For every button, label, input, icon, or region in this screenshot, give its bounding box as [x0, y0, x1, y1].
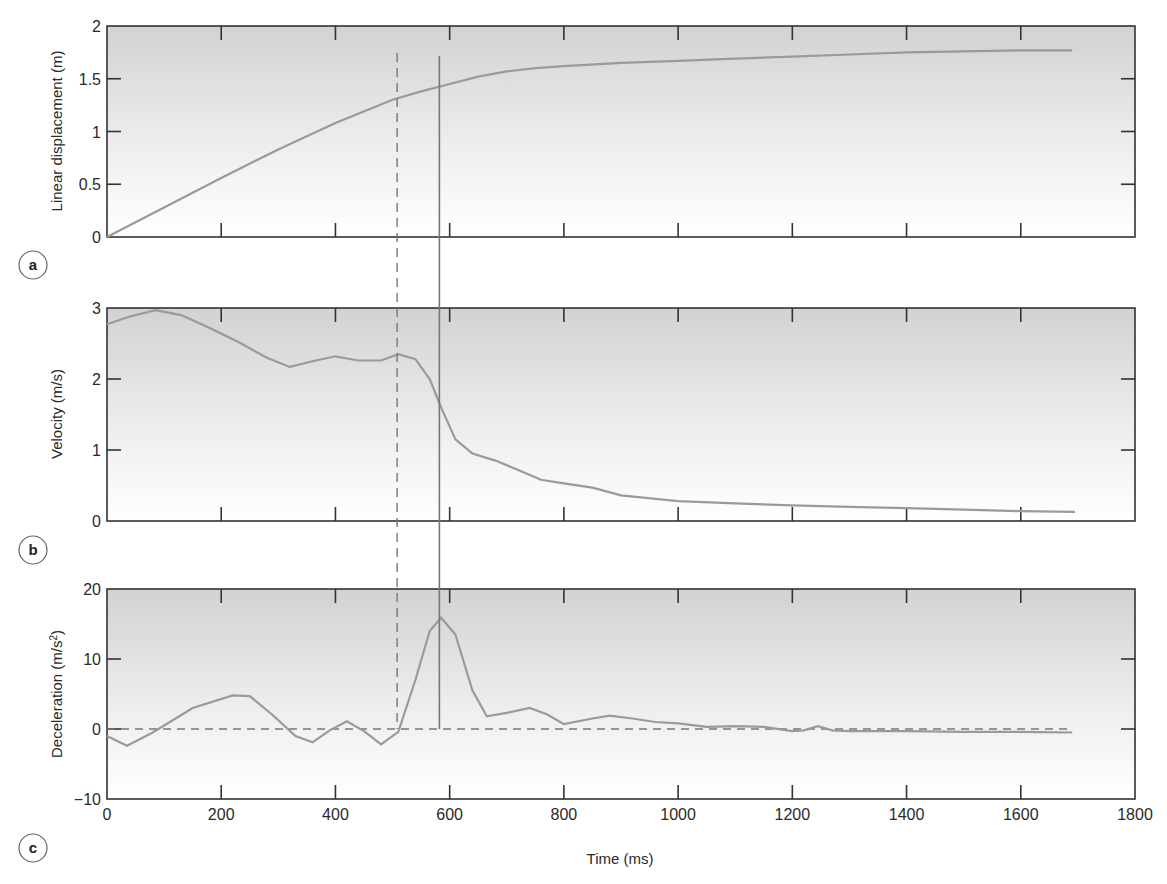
x-tick-label: 1200: [775, 806, 811, 823]
panel-b-y-tick-labels: 0123: [92, 300, 101, 530]
panel-c-y-axis-title-text: Deceleration (m/s: [48, 641, 65, 759]
panel-c-label: c: [19, 834, 47, 862]
y-tick-label: 1: [92, 124, 101, 141]
x-tick-labels: 020040060080010001200140016001800: [103, 806, 1153, 823]
panel-a-y-axis-title: Linear displacement (m): [48, 51, 65, 212]
panel-c-plot-area: [107, 589, 1135, 799]
y-tick-label: 0: [92, 513, 101, 530]
y-tick-label: −10: [74, 791, 101, 808]
x-tick-label: 1800: [1117, 806, 1153, 823]
panel-a-y-tick-labels: 00.511.52: [79, 18, 101, 246]
x-tick-label: 600: [436, 806, 463, 823]
panel-b-label: b: [19, 536, 47, 564]
y-tick-label: 0: [92, 229, 101, 246]
x-tick-label: 1400: [889, 806, 925, 823]
x-tick-label: 200: [208, 806, 235, 823]
x-tick-label: 0: [103, 806, 112, 823]
figure-canvas: 00.511.52 Linear displacement (m) a 0123…: [0, 0, 1167, 884]
y-tick-label: 0.5: [79, 176, 101, 193]
panel-c-y-axis-close-paren: ): [48, 630, 65, 635]
x-axis-title: Time (ms): [587, 850, 654, 867]
y-tick-label: 3: [92, 300, 101, 317]
panel-c: −1001020 Deceleration (m/s2) 02004006008…: [19, 581, 1153, 867]
panel-b-letter: b: [28, 541, 37, 558]
panel-c-y-tick-labels: −1001020: [74, 581, 101, 808]
panel-c-letter: c: [29, 839, 37, 856]
x-tick-label: 800: [551, 806, 578, 823]
panel-c-y-axis-title: Deceleration (m/s2): [48, 630, 66, 758]
y-tick-label: 2: [92, 371, 101, 388]
y-tick-label: 0: [92, 721, 101, 738]
y-tick-label: 1: [92, 442, 101, 459]
panel-a-letter: a: [29, 256, 38, 273]
panel-b-plot-area: [107, 308, 1135, 521]
panel-a: 00.511.52 Linear displacement (m) a: [19, 18, 1135, 279]
panel-b: 0123 Velocity (m/s) b: [19, 300, 1135, 564]
y-tick-label: 1.5: [79, 71, 101, 88]
x-tick-label: 1000: [660, 806, 696, 823]
y-tick-label: 20: [83, 581, 101, 598]
x-tick-label: 1600: [1003, 806, 1039, 823]
x-tick-label: 400: [322, 806, 349, 823]
panel-a-label: a: [19, 251, 47, 279]
panel-a-plot-area: [107, 26, 1135, 237]
panel-b-y-axis-title: Velocity (m/s): [48, 369, 65, 459]
y-tick-label: 2: [92, 18, 101, 35]
y-tick-label: 10: [83, 651, 101, 668]
